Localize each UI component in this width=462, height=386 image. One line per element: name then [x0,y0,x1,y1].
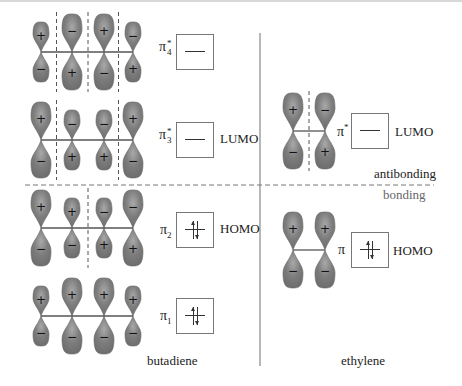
lumo-label-butadiene: LUMO [220,131,258,147]
energy-level-line [185,51,205,52]
minus-sign: − [67,24,77,38]
pi4-star-level-box [176,34,214,70]
minus-sign: − [36,62,46,76]
plus-sign: + [128,293,138,307]
energy-level-line [360,130,380,131]
minus-sign: − [67,117,77,131]
minus-sign: − [99,117,109,131]
pi-star-label-ethylene: π* [337,122,349,140]
pi2-label: π2 [160,222,172,240]
minus-sign: − [36,242,46,256]
minus-sign: − [288,264,298,278]
plus-sign: + [67,205,77,219]
plus-sign: + [320,145,330,159]
minus-sign: − [128,154,138,168]
homo-label-ethylene: HOMO [393,243,433,259]
butadiene-label: butadiene [147,353,198,369]
minus-sign: − [99,330,109,344]
plus-sign: + [67,66,77,80]
minus-sign: − [99,205,109,219]
plus-sign: + [67,150,77,164]
plus-sign: + [36,29,46,43]
minus-sign: − [128,200,138,214]
minus-sign: − [128,326,138,340]
spin-up-electron-icon [193,221,194,239]
spin-down-electron-icon [197,307,198,325]
bonding-label: bonding [383,187,426,203]
minus-sign: − [36,154,46,168]
plus-sign: + [67,288,77,302]
spin-up-electron-icon [193,307,194,325]
plus-sign: + [128,62,138,76]
plus-sign: + [99,288,109,302]
plus-sign: + [128,242,138,256]
pi1-label: π1 [160,308,172,326]
energy-level-line [185,229,205,230]
pi1-level-box [176,298,214,334]
pi3-star-level-box [176,122,214,158]
plus-sign: + [320,222,330,236]
minus-sign: − [36,326,46,340]
minus-sign: − [320,103,330,117]
plus-sign: + [99,238,109,252]
minus-sign: − [67,330,77,344]
plus-sign: + [288,222,298,236]
pi3-star-label: π*3 [159,127,172,145]
minus-sign: − [128,29,138,43]
spin-down-electron-icon [372,241,373,259]
pi2-level-box [176,212,214,248]
pi-star-level-box-ethylene [351,113,389,149]
pi4-star-label: π*4 [159,39,172,57]
pi-label-ethylene: π [338,242,345,258]
minus-sign: − [288,145,298,159]
plus-sign: + [36,112,46,126]
minus-sign: − [320,264,330,278]
pi-level-box-ethylene [351,232,389,268]
plus-sign: + [36,200,46,214]
homo-label-butadiene: HOMO [220,221,260,237]
minus-sign: − [67,238,77,252]
plus-sign: + [288,103,298,117]
energy-level-line [185,139,205,140]
energy-level-line [360,249,380,250]
minus-sign: − [99,66,109,80]
spin-down-electron-icon [197,221,198,239]
plus-sign: + [99,150,109,164]
plus-sign: + [99,24,109,38]
lumo-label-ethylene: LUMO [395,124,433,140]
plus-sign: + [128,112,138,126]
energy-level-line [185,315,205,316]
spin-up-electron-icon [368,241,369,259]
ethylene-label: ethylene [341,353,385,369]
plus-sign: + [36,293,46,307]
antibonding-label: antibonding [374,166,436,182]
